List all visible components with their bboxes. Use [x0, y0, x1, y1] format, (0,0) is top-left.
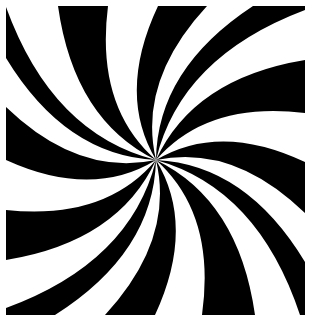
swirl-image	[0, 0, 309, 323]
swirl-graphic	[0, 0, 309, 323]
